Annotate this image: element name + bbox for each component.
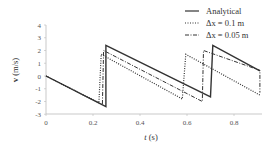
y-ticks: 43210-1-2-3	[35, 22, 46, 119]
x-ticks: 00.20.40.60.8	[44, 114, 239, 127]
velocity-chart: 43210-1-2-3 00.20.40.60.8 v (m/s) t (s) …	[0, 0, 275, 148]
legend-label-analytical: Analytical	[206, 6, 242, 16]
y-tick-label: 3	[38, 34, 42, 42]
x-tick-label: 0.6	[183, 119, 192, 127]
legend-label-dx-0-05: Δx = 0.05 m	[206, 30, 249, 40]
x-tick-label: 0.8	[230, 119, 239, 127]
y-tick-label: -2	[35, 98, 41, 106]
legend-label-dx-0-1: Δx = 0.1 m	[206, 18, 245, 28]
y-tick-label: 4	[38, 22, 42, 30]
y-tick-label: -1	[35, 85, 41, 93]
x-axis-label: t (s)	[144, 132, 158, 142]
y-axis-label: v (m/s)	[10, 58, 20, 82]
x-tick-label: 0	[44, 119, 48, 127]
series-line-dotted	[46, 54, 260, 103]
y-tick-label: 0	[38, 73, 42, 81]
legend: Analytical Δx = 0.1 m Δx = 0.05 m	[185, 6, 249, 40]
y-tick-label: 1	[38, 60, 42, 68]
series-line-solid	[46, 45, 260, 106]
x-tick-label: 0.4	[136, 119, 145, 127]
series-group	[46, 45, 260, 106]
x-tick-label: 0.2	[89, 119, 98, 127]
y-tick-label: 2	[38, 47, 42, 55]
y-tick-label: -3	[35, 111, 41, 119]
